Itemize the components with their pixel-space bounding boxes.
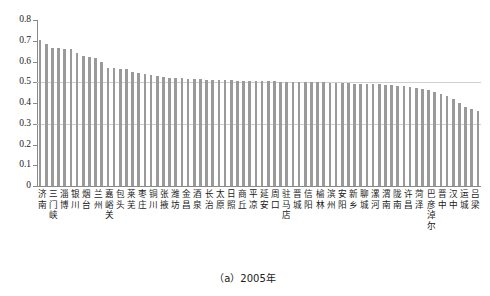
x-axis-tick-label: 吕梁	[470, 189, 481, 210]
bar	[193, 79, 196, 186]
x-axis-tick-label: 淄博	[59, 189, 70, 210]
bar	[298, 82, 301, 186]
x-axis-tick-label: 枣庄	[137, 189, 148, 210]
x-axis-tick-label: 聊城	[359, 189, 370, 210]
x-axis-tick-label: 银川	[70, 189, 81, 210]
bar	[162, 77, 165, 186]
y-axis-tick-label: 0.1	[19, 161, 31, 171]
x-axis-tick-label: 榆林	[315, 189, 326, 210]
x-axis-tick-label: 渭南	[381, 189, 392, 210]
bar	[415, 88, 418, 186]
bar	[292, 82, 295, 186]
chart-figure: 0.80.70.60.50.40.30.20.10 济南三门峡淄博银川烟台兰州嘉…	[0, 0, 490, 296]
bar	[403, 86, 406, 186]
figure-caption: （a）2005年	[0, 270, 490, 285]
bar	[347, 83, 350, 186]
bar	[45, 44, 48, 186]
bar	[211, 80, 214, 186]
bar	[199, 79, 202, 186]
bar	[187, 79, 190, 186]
bar	[255, 81, 258, 186]
y-axis-tick-label: 0.6	[19, 57, 31, 67]
bar	[440, 94, 443, 186]
bar	[477, 111, 480, 186]
bar	[446, 96, 449, 186]
bar	[100, 62, 103, 186]
bar	[353, 84, 356, 187]
bar	[63, 49, 66, 186]
bar	[366, 84, 369, 186]
bar	[378, 84, 381, 186]
x-axis-tick-label: 漯河	[370, 189, 381, 210]
x-axis-tick-label: 信阳	[303, 189, 314, 210]
bar	[304, 82, 307, 186]
bar	[279, 82, 282, 186]
x-axis-tick-label: 运城	[459, 189, 470, 210]
x-axis-tick-label: 新乡	[348, 189, 359, 210]
bar	[427, 90, 430, 186]
bar	[131, 72, 134, 186]
x-axis-tick-label: 莱芜	[126, 189, 137, 210]
x-axis-tick-label: 晋城	[292, 189, 303, 210]
bar	[94, 58, 97, 186]
bar	[39, 40, 42, 186]
x-axis-tick-label: 太原	[215, 189, 226, 210]
x-axis-tick-label: 酒泉	[192, 189, 203, 210]
bar	[70, 49, 73, 186]
bar	[230, 80, 233, 186]
bar	[384, 85, 387, 186]
bar	[137, 73, 140, 186]
x-axis-tick-label: 张掖	[159, 189, 170, 210]
y-axis-tick-label: 0.7	[19, 36, 31, 46]
x-axis-tick-label: 滨州	[326, 189, 337, 210]
bar	[224, 80, 227, 186]
bar	[322, 82, 325, 186]
bar	[458, 103, 461, 186]
x-axis-tick-label: 汉中	[448, 189, 459, 210]
x-axis-tick-label: 晋中	[437, 189, 448, 210]
bar	[218, 80, 221, 186]
x-axis-tick-label: 巴彦淖尔	[426, 189, 437, 231]
x-axis-tick-label: 金昌	[181, 189, 192, 210]
x-axis-tick-label: 潍坊	[170, 189, 181, 210]
x-axis-tick-label: 烟台	[81, 189, 92, 210]
bar	[168, 78, 171, 186]
y-axis-tick-label: 0.2	[19, 140, 31, 150]
bar	[390, 85, 393, 186]
x-axis-labels: 济南三门峡淄博银川烟台兰州嘉峪关包头莱芜枣庄铜川张掖潍坊金昌酒泉长治太原日照商丘…	[37, 189, 481, 261]
bar	[316, 82, 319, 186]
bar	[242, 81, 245, 186]
bar	[267, 81, 270, 186]
bar	[335, 83, 338, 186]
bar	[433, 92, 436, 186]
bar	[144, 74, 147, 186]
x-axis-line	[37, 186, 481, 187]
x-axis-tick-label: 包头	[115, 189, 126, 210]
bar	[88, 57, 91, 186]
x-axis-tick-label: 商丘	[237, 189, 248, 210]
bar	[174, 78, 177, 186]
bar	[285, 82, 288, 186]
bar	[396, 86, 399, 186]
y-axis-tick-label: 0	[26, 181, 31, 191]
bar	[107, 68, 110, 186]
bar	[181, 78, 184, 186]
plot-area: 0.80.70.60.50.40.30.20.10	[37, 20, 481, 186]
x-axis-tick-label: 长治	[204, 189, 215, 210]
x-axis-tick-label: 铜川	[148, 189, 159, 210]
x-axis-tick-label: 日照	[226, 189, 237, 210]
bar-series	[37, 20, 481, 186]
bar	[409, 87, 412, 186]
x-axis-tick-label: 三门峡	[48, 189, 59, 221]
bar	[421, 89, 424, 186]
bar	[150, 75, 153, 186]
y-axis-tick-label: 0.8	[19, 15, 31, 25]
x-axis-tick-label: 嘉峪关	[104, 189, 115, 221]
x-axis-tick-label: 济南	[37, 189, 48, 210]
bar	[470, 109, 473, 186]
bar	[341, 83, 344, 186]
x-axis-tick-label: 兰州	[93, 189, 104, 210]
x-axis-tick-label: 周口	[270, 189, 281, 210]
bar	[125, 69, 128, 186]
x-axis-tick-label: 延安	[259, 189, 270, 210]
